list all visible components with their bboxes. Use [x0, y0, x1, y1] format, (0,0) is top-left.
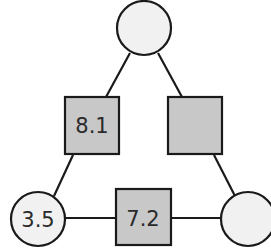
circle-bottom-right	[221, 192, 271, 246]
edge-top-left	[106, 53, 130, 97]
circle-top	[117, 1, 171, 55]
square-left-label: 8.1	[75, 114, 108, 138]
edge-left-bottom	[54, 155, 73, 196]
edge-right-bottom	[214, 155, 235, 196]
edge-top-right	[158, 53, 182, 97]
square-right	[168, 97, 222, 154]
circle-bottom-left-label: 3.5	[21, 208, 54, 232]
square-bottom-label: 7.2	[126, 207, 159, 231]
triangle-diagram: 3.5 8.1 7.2	[0, 0, 271, 249]
